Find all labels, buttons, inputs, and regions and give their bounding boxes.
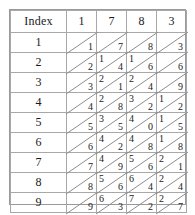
tens-digit: 1 — [99, 53, 104, 64]
diagonal-divider-icon — [66, 132, 98, 154]
lattice-cell: 15 — [157, 113, 187, 133]
lattice-cell-inner: 14 — [97, 53, 126, 72]
lattice-cell-inner: 40 — [127, 113, 156, 132]
diagonal-divider-icon — [66, 92, 98, 114]
lattice-cell: 3 — [67, 73, 97, 93]
lattice-cell-inner: 24 — [157, 173, 186, 192]
units-digit: 6 — [148, 61, 153, 72]
row-index-cell: 3 — [11, 73, 67, 93]
table-row: 44283212 — [11, 93, 187, 113]
units-digit: 4 — [88, 101, 93, 112]
lattice-cell-inner: 64 — [127, 173, 156, 192]
column-header-2: 8 — [127, 11, 157, 33]
lattice-cell-inner: 2 — [67, 53, 96, 72]
tens-digit: 2 — [99, 73, 104, 84]
diagonal-divider-icon — [126, 32, 158, 54]
lattice-cell: 56 — [127, 153, 157, 173]
lattice-cell-inner: 6 — [67, 133, 96, 152]
table-row: 77495621 — [11, 153, 187, 173]
diagonal-divider-icon — [66, 152, 98, 174]
units-digit: 4 — [178, 181, 183, 192]
units-digit: 9 — [178, 81, 183, 92]
lattice-cell: 48 — [127, 133, 157, 153]
lattice-cell: 49 — [97, 153, 127, 173]
lattice-cell-inner: 4 — [67, 93, 96, 112]
lattice-cell-inner: 7 — [67, 153, 96, 172]
units-digit: 2 — [148, 201, 153, 212]
units-digit: 0 — [148, 121, 153, 132]
index-column-header: Index — [11, 11, 67, 33]
tens-digit: 2 — [159, 193, 164, 204]
lattice-cell: 32 — [127, 93, 157, 113]
lattice-cell: 6 — [157, 53, 187, 73]
lattice-cell-inner: 15 — [157, 113, 186, 132]
lattice-cell: 8 — [67, 173, 97, 193]
column-header-3: 3 — [157, 11, 187, 33]
lattice-cell: 8 — [127, 33, 157, 53]
units-digit: 8 — [118, 101, 123, 112]
tens-digit: 5 — [129, 153, 134, 164]
units-digit: 2 — [148, 101, 153, 112]
diagonal-divider-icon — [66, 172, 98, 194]
lattice-cell-inner: 56 — [127, 153, 156, 172]
grid: Index 1 7 8 3 11783221416633212494428321… — [10, 10, 187, 213]
diagonal-divider-icon — [156, 72, 188, 94]
tens-digit: 4 — [99, 153, 104, 164]
units-digit: 3 — [178, 41, 183, 52]
table-row: 3321249 — [11, 73, 187, 93]
tens-digit: 1 — [159, 133, 164, 144]
lattice-cell: 27 — [157, 193, 187, 213]
lattice-cell: 24 — [157, 173, 187, 193]
lattice-cell-inner: 8 — [67, 173, 96, 192]
row-index-cell: 6 — [11, 133, 67, 153]
diagonal-divider-icon — [66, 72, 98, 94]
lattice-cell: 9 — [67, 193, 97, 213]
lattice-cell: 7 — [97, 33, 127, 53]
lattice-cell: 21 — [97, 73, 127, 93]
units-digit: 8 — [178, 141, 183, 152]
lattice-cell: 40 — [127, 113, 157, 133]
units-digit: 2 — [118, 141, 123, 152]
units-digit: 7 — [178, 201, 183, 212]
lattice-cell-inner: 42 — [97, 133, 126, 152]
tens-digit: 4 — [129, 113, 134, 124]
units-digit: 2 — [178, 101, 183, 112]
tens-digit: 2 — [129, 73, 134, 84]
units-digit: 6 — [148, 161, 153, 172]
diagonal-divider-icon — [66, 112, 98, 134]
lattice-cell-inner: 32 — [127, 93, 156, 112]
lattice-cell: 21 — [157, 153, 187, 173]
lattice-cell: 42 — [97, 133, 127, 153]
lattice-cell: 63 — [97, 193, 127, 213]
lattice-cell: 35 — [97, 113, 127, 133]
tens-digit: 6 — [99, 193, 104, 204]
table-header: Index 1 7 8 3 — [11, 11, 187, 33]
units-digit: 7 — [88, 161, 93, 172]
lattice-cell-inner: 5 — [67, 113, 96, 132]
diagonal-divider-icon — [156, 32, 188, 54]
units-digit: 3 — [88, 81, 93, 92]
units-digit: 5 — [178, 121, 183, 132]
tens-digit: 7 — [129, 193, 134, 204]
lattice-cell-inner: 9 — [67, 193, 96, 212]
table-row: 99637227 — [11, 193, 187, 213]
lattice-cell-inner: 48 — [127, 133, 156, 152]
lattice-cell: 1 — [67, 33, 97, 53]
units-digit: 5 — [88, 121, 93, 132]
units-digit: 1 — [178, 161, 183, 172]
units-digit: 8 — [148, 41, 153, 52]
lattice-cell: 16 — [127, 53, 157, 73]
tens-digit: 4 — [99, 133, 104, 144]
lattice-cell-inner: 12 — [157, 93, 186, 112]
lattice-cell-inner: 72 — [127, 193, 156, 212]
table-row: 55354015 — [11, 113, 187, 133]
row-index-cell: 8 — [11, 173, 67, 193]
row-index-cell: 4 — [11, 93, 67, 113]
lattice-cell: 12 — [157, 93, 187, 113]
lattice-cell: 3 — [157, 33, 187, 53]
lattice-cell-inner: 3 — [67, 73, 96, 92]
table-row: 66424818 — [11, 133, 187, 153]
tens-digit: 1 — [159, 113, 164, 124]
lattice-cell: 18 — [157, 133, 187, 153]
lattice-cell-inner: 49 — [97, 153, 126, 172]
